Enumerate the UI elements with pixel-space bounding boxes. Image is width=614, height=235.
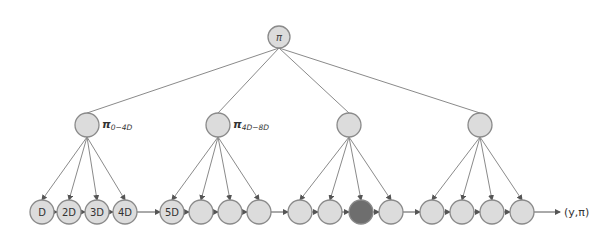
root-node-label: π <box>276 32 283 43</box>
leaf-node <box>247 200 271 224</box>
node-labels: π (y,π) D2D3D4D5Dπ0−4Dπ4D−8D <box>38 32 589 219</box>
leaf-node <box>379 200 403 224</box>
leaf-node <box>480 200 504 224</box>
leaf-node <box>288 200 312 224</box>
leaf-node <box>218 200 242 224</box>
mid-node-1 <box>75 113 99 137</box>
leaf-node <box>450 200 474 224</box>
mid-node-4 <box>468 113 492 137</box>
mid-node-label: π4D−8D <box>233 118 269 132</box>
mid-node-2 <box>206 113 230 137</box>
leaf-node-label: D <box>38 207 46 218</box>
leaf-node <box>189 200 213 224</box>
leaf-node-label: 4D <box>118 207 132 218</box>
leaf-node <box>510 200 534 224</box>
mid-node-label: π0−4D <box>102 118 133 132</box>
hierarchical-tree-diagram: π (y,π) D2D3D4D5Dπ0−4Dπ4D−8D <box>0 0 614 235</box>
output-label: (y,π) <box>564 206 589 219</box>
leaf-node <box>420 200 444 224</box>
leaf-node-label: 3D <box>90 207 104 218</box>
highlighted-leaf-node <box>349 200 373 224</box>
mid-node-3 <box>337 113 361 137</box>
leaf-node-label: 2D <box>62 207 76 218</box>
leaf-node-label: 5D <box>165 207 179 218</box>
leaf-node <box>318 200 342 224</box>
